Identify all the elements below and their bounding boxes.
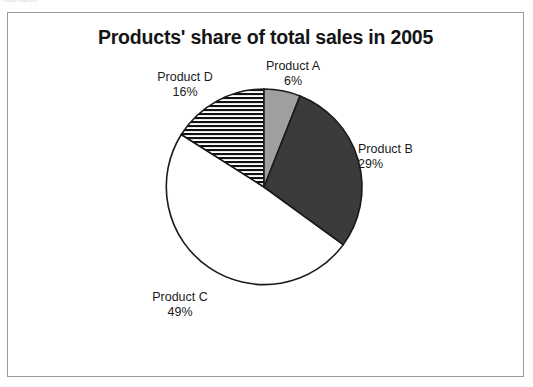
pie-label-product-a-value: 6% <box>247 74 339 89</box>
pie-label-product-a: Product A 6% <box>247 59 339 89</box>
pie-label-product-c-value: 49% <box>134 305 226 320</box>
pie-label-product-b-value: 29% <box>358 157 450 172</box>
chart-frame: Products' share of total sales in 2005 P… <box>7 12 524 377</box>
scan-artifact-text: Information <box>3 0 123 4</box>
pie-label-product-b-name: Product B <box>358 142 413 156</box>
pie-label-product-d-name: Product D <box>157 70 213 84</box>
pie-label-product-d-value: 16% <box>139 85 231 100</box>
pie-label-product-d: Product D 16% <box>139 70 231 100</box>
pie-label-product-a-name: Product A <box>266 59 320 73</box>
pie-label-product-c-name: Product C <box>152 290 208 304</box>
pie-label-product-c: Product C 49% <box>134 290 226 320</box>
pie-label-product-b: Product B 29% <box>358 142 450 172</box>
